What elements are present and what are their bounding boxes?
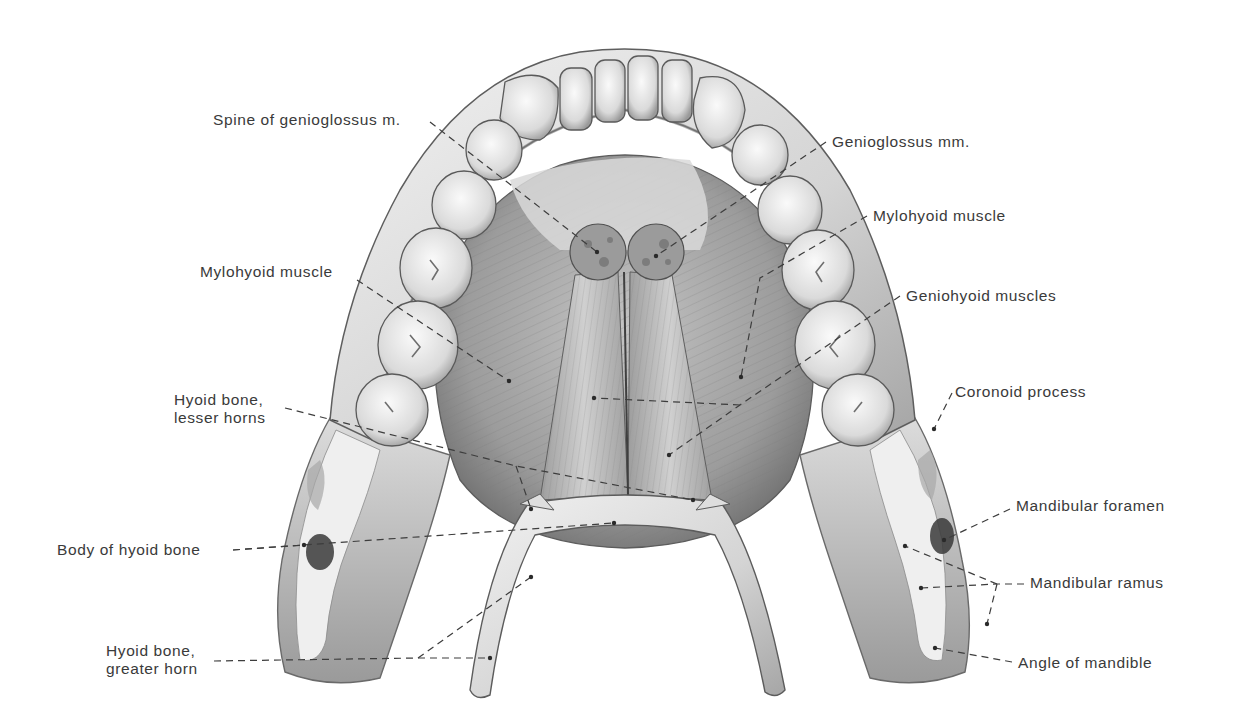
body-hyoid-pointer-dot	[302, 543, 306, 547]
label-hyoid-lesser-horns: Hyoid bone,lesser horns	[174, 391, 266, 427]
geniohyoid-muscles-pointer-dot	[667, 453, 671, 457]
hyoid-greater-horn-leader	[418, 577, 531, 658]
label-mylohyoid-muscle-right: Mylohyoid muscle	[873, 207, 1006, 225]
geniohyoid-muscles-pointer-dot	[592, 396, 596, 400]
angle-of-mandible-pointer-dot	[933, 646, 937, 650]
mandibular-ramus-leader	[987, 584, 997, 624]
hyoid-greater-horn-pointer-dot	[529, 575, 533, 579]
hyoid-lesser-horns-pointer-dot	[691, 498, 695, 502]
hyoid-greater-horn-pointer-dot	[488, 656, 492, 660]
mandibular-foramen-pointer-dot	[942, 538, 946, 542]
label-mandibular-ramus: Mandibular ramus	[1030, 574, 1164, 592]
label-angle-of-mandible: Angle of mandible	[1018, 654, 1152, 672]
anatomy-figure: Spine of genioglossus m.Genioglossus mm.…	[0, 0, 1246, 726]
spine-genioglossus-pointer-dot	[595, 250, 599, 254]
body-hyoid-pointer-dot	[612, 521, 616, 525]
coronoid-process-pointer-dot	[932, 427, 936, 431]
mylohyoid-muscle-right-pointer-dot	[739, 375, 743, 379]
coronoid-process-leader	[934, 393, 952, 429]
label-hyoid-greater-horn: Hyoid bone,greater horn	[106, 642, 198, 678]
mandibular-ramus-pointer-dot	[919, 586, 923, 590]
mandibular-ramus-pointer-dot	[985, 622, 989, 626]
mandible-illustration	[0, 0, 1246, 726]
label-body-hyoid: Body of hyoid bone	[57, 541, 201, 559]
mandibular-ramus-pointer-dot	[903, 544, 907, 548]
label-coronoid-process: Coronoid process	[955, 383, 1086, 401]
label-genioglossus-mm: Genioglossus mm.	[832, 133, 970, 151]
genioglossus-mm-pointer-dot	[654, 254, 658, 258]
label-mandibular-foramen: Mandibular foramen	[1016, 497, 1165, 515]
hyoid-lesser-horns-pointer-dot	[529, 507, 533, 511]
label-mylohyoid-muscle-left: Mylohyoid muscle	[200, 263, 333, 281]
mylohyoid-muscle-left-pointer-dot	[507, 379, 511, 383]
hyoid-bone	[470, 494, 785, 698]
label-geniohyoid-muscles: Geniohyoid muscles	[906, 287, 1056, 305]
label-spine-genioglossus: Spine of genioglossus m.	[213, 111, 401, 129]
